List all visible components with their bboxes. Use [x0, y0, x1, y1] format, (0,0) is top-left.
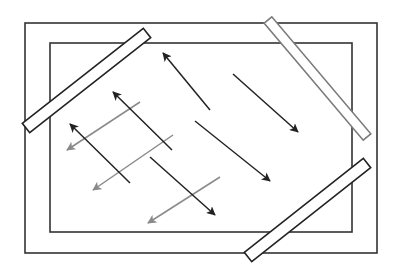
diagram-svg [0, 0, 399, 266]
dark-arrow-2 [233, 74, 298, 132]
dark-arrow-1 [163, 53, 210, 110]
top-left-bar [22, 28, 150, 132]
dark-arrow-4 [70, 124, 130, 183]
arrows-group [67, 53, 298, 223]
dark-arrow-5 [195, 121, 270, 181]
top-right-bar [264, 17, 371, 140]
gray-arrow-1 [67, 102, 140, 150]
frames-group [25, 23, 377, 253]
outer-frame [25, 23, 377, 253]
gray-arrow-3 [148, 177, 220, 223]
diagram-canvas [0, 0, 399, 266]
dark-arrow-3 [113, 92, 172, 150]
gray-arrow-2 [93, 135, 173, 190]
bars-group [22, 17, 371, 262]
